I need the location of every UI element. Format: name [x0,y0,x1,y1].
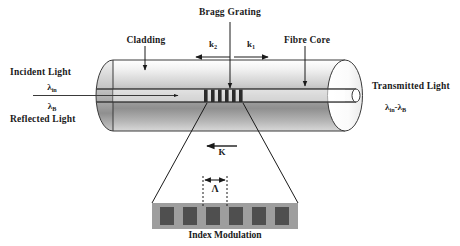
fibre-core-label: Fibre Core [284,36,330,46]
incident-wavelength-label: λin [47,83,57,92]
cladding-label: Cladding [126,36,165,46]
modulation-bar [206,207,220,225]
k-vector-label: K [218,148,225,157]
fibre-bragg-grating-figure: Bragg Grating Cladding Fibre Core k2 k1 … [0,0,460,246]
reflected-light-label: Reflected Light [10,115,76,125]
modulation-bar [252,207,266,225]
modulation-bar [275,207,289,225]
period-label: Λ [211,184,218,195]
incident-light-label: Incident Light [10,68,71,78]
k1-label: k1 [247,40,255,49]
transmitted-light-label: Transmitted Light [372,82,450,92]
k2-label: k2 [209,40,217,49]
core-end-opening [352,89,360,102]
modulation-bar [183,207,197,225]
bragg-grating-label: Bragg Grating [199,8,261,18]
modulation-bar [229,207,243,225]
index-modulation-caption: Index Modulation [188,231,261,241]
modulation-bar [160,207,174,225]
reflected-wavelength-label: λB [48,102,57,111]
transmitted-wavelength-label: λin-λB [385,103,406,112]
index-modulation-block [152,203,298,229]
